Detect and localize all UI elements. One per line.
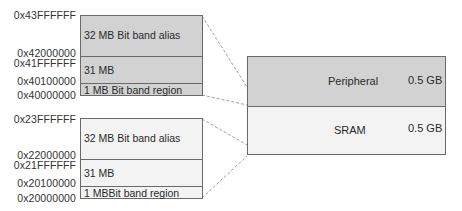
address-label: 0x40100000	[0, 75, 76, 87]
region-name: Peripheral	[328, 75, 378, 87]
segment-label: 1 MBBit band region	[84, 187, 179, 199]
segment-bit-band-alias: 32 MB Bit band alias	[81, 119, 202, 159]
peripheral-bitband-block: 32 MB Bit band alias 31 MB 1 MB Bit band…	[80, 15, 203, 96]
connector-peripheral-bottom	[202, 95, 247, 105]
region-size: 0.5 GB	[408, 122, 442, 134]
region-sram: SRAM 0.5 GB	[248, 106, 445, 154]
region-size: 0.5 GB	[408, 74, 442, 86]
segment-label: 32 MB Bit band alias	[84, 29, 180, 41]
region-peripheral: Peripheral 0.5 GB	[248, 57, 445, 106]
address-label: 0x40000000	[0, 89, 76, 101]
connector-sram-bottom	[202, 156, 247, 198]
address-label: 0x20000000	[0, 192, 76, 204]
sram-bitband-block: 32 MB Bit band alias 31 MB 1 MBBit band …	[80, 118, 203, 199]
segment-bit-band-region: 1 MBBit band region	[81, 186, 202, 199]
segment-label: 32 MB Bit band alias	[84, 132, 180, 144]
address-label: 0x43FFFFFF	[0, 9, 76, 21]
region-name: SRAM	[334, 124, 366, 136]
segment-bit-band-region: 1 MB Bit band region	[81, 83, 202, 96]
segment-bit-band-alias: 32 MB Bit band alias	[81, 16, 202, 56]
connector-sram-top	[202, 119, 247, 145]
address-label: 0x23FFFFFF	[0, 113, 76, 125]
connector-peripheral-top	[202, 16, 247, 87]
segment-label: 31 MB	[84, 167, 114, 179]
segment-31mb: 31 MB	[81, 56, 202, 83]
address-label: 0x20100000	[0, 177, 76, 189]
address-label: 0x41FFFFFF	[0, 57, 76, 69]
segment-label: 31 MB	[84, 64, 114, 76]
segment-31mb: 31 MB	[81, 159, 202, 186]
segment-label: 1 MB Bit band region	[84, 84, 182, 96]
memory-map-block: Peripheral 0.5 GB SRAM 0.5 GB	[247, 56, 446, 155]
address-label: 0x21FFFFFF	[0, 159, 76, 171]
